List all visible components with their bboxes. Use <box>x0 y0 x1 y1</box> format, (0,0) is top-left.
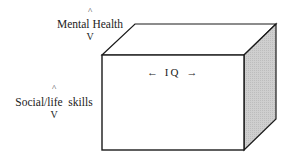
mental-health-up-marker: ^ <box>84 7 96 16</box>
right-arrow-icon: → <box>187 66 199 78</box>
social-skills-label: Social/life skills <box>10 97 98 109</box>
social-skills-up-marker: ^ <box>48 84 60 93</box>
left-arrow-icon: ← <box>147 66 159 78</box>
diagram-canvas: ^ Mental Health V ^ Social/life skills V… <box>0 0 292 164</box>
iq-axis-label: ← IQ → <box>147 67 198 78</box>
iq-label: IQ <box>165 66 181 78</box>
mental-health-down-marker: V <box>84 32 96 42</box>
mental-health-label: Mental Health <box>50 19 130 31</box>
box-3d-figure <box>0 0 292 164</box>
social-skills-down-marker: V <box>48 110 60 120</box>
